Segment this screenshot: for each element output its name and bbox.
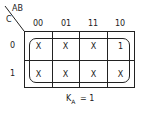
grouping-loop bbox=[29, 38, 130, 83]
col-header-00: 00 bbox=[33, 20, 43, 28]
col-header-01: 01 bbox=[61, 20, 71, 28]
result-expression: KA = 1 bbox=[66, 94, 94, 105]
row-header-0: 0 bbox=[10, 42, 15, 50]
result-subscript: A bbox=[71, 98, 75, 105]
corner-label-ab: AB bbox=[12, 5, 23, 13]
col-header-11: 11 bbox=[88, 20, 98, 28]
result-equation: = 1 bbox=[80, 94, 94, 103]
corner-label-c: C bbox=[6, 16, 12, 24]
col-header-10: 10 bbox=[115, 20, 125, 28]
row-header-1: 1 bbox=[10, 70, 15, 78]
